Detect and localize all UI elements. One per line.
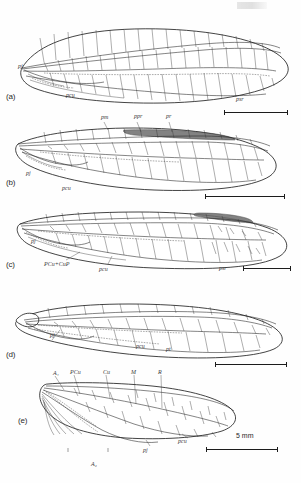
panel-b-label: (b) [6, 178, 15, 187]
panel-d-label: (d) [6, 350, 15, 359]
panel-b-label-pj: pj [26, 170, 31, 176]
panel-a: (a) [4, 18, 299, 114]
scale-bar-e [206, 449, 278, 450]
panel-c-label-psr: psr [219, 265, 227, 271]
panel-c-label-pcu-cup: PCu+CuP [44, 261, 69, 267]
panel-c-label-pj: pj [31, 238, 36, 244]
panel-a-label-pj: pj [18, 63, 23, 69]
panel-b-drawing [4, 122, 299, 194]
panel-d-drawing [4, 296, 299, 362]
panel-e-label: (e) [18, 416, 27, 425]
scale-bar-d [215, 364, 287, 365]
panel-e-label-pj: pj [143, 447, 148, 453]
panel-d: (d) [4, 296, 299, 362]
panel-e-label-m: M [131, 369, 136, 375]
panel-e-label-pcu-vein: PCu [70, 369, 81, 375]
wing-venation-figure: (a) pj pcu psr [0, 0, 301, 483]
scale-bar-text: 5 mm [236, 432, 254, 439]
page-header-smudge [237, 2, 267, 9]
panel-d-label-pt: pt [166, 346, 171, 352]
panel-c-label: (c) [6, 260, 15, 269]
panel-b-label-ppr: ppr [134, 113, 142, 119]
panel-b: (b) [4, 122, 299, 194]
panel-b-label-pr: pr [166, 113, 171, 119]
panel-e-label-cu: Cu [103, 369, 110, 375]
panel-e-label-a1: A₁ [53, 370, 59, 376]
panel-c-label-pcu: pcu [99, 266, 108, 272]
panel-a-label-pcu: pcu [66, 92, 75, 98]
panel-b-label-pcu: pcu [62, 185, 71, 191]
panel-a-drawing [4, 18, 299, 114]
panel-d-label-pj: pj [50, 332, 55, 338]
panel-e-label-pcu: pcu [178, 438, 187, 444]
scale-bar-b [205, 196, 285, 197]
panel-e-label-a2: A₂ [91, 461, 97, 467]
panel-a-label: (a) [6, 92, 15, 101]
scale-bar-c [243, 268, 291, 269]
panel-b-label-pm: pm [101, 114, 108, 120]
panel-a-label-psr: psr [236, 96, 244, 102]
scale-bar-a [224, 112, 288, 113]
panel-e-label-r: R [158, 369, 162, 375]
panel-d-label-pcu: pcu [136, 343, 145, 349]
